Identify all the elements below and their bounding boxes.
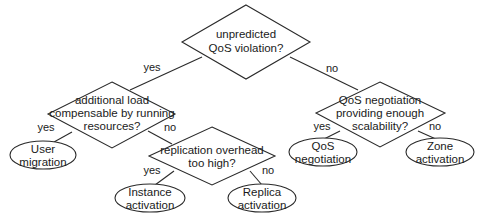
outcome-instance-activation-line-1: Instance xyxy=(128,186,171,198)
decision-right: QoS negotiation providing enough scalabi… xyxy=(316,82,445,147)
outcome-zone-activation-line-1: Zone xyxy=(427,140,453,152)
decision-left: additional load compensable by running r… xyxy=(48,82,175,148)
outcome-user-migration-line-1: User xyxy=(31,143,55,155)
outcome-instance-activation: Instance activation xyxy=(115,184,185,212)
edge-replication-to-replica xyxy=(250,171,262,185)
decision-replication-line-2: too high? xyxy=(188,157,235,169)
edge-label-right-qos: yes xyxy=(313,120,331,132)
edge-label-root-right: no xyxy=(326,62,338,74)
edge-root-to-left xyxy=(130,57,202,90)
decision-left-line-1: additional load xyxy=(75,94,149,106)
outcome-zone-activation: Zone activation xyxy=(406,138,474,166)
decision-root: unpredicted QoS violation? xyxy=(182,5,310,79)
edge-label-right-zone: no xyxy=(429,120,441,132)
outcome-user-migration: User migration xyxy=(10,141,76,169)
outcome-replica-activation-line-2: activation xyxy=(238,199,287,211)
decision-tree-diagram: yes no yes no yes no yes no unpredicted … xyxy=(0,0,487,219)
decision-right-line-1: QoS negotiation xyxy=(339,94,421,106)
outcome-replica-activation-line-1: Replica xyxy=(243,186,282,198)
edge-label-replication-replica: no xyxy=(262,164,274,176)
outcome-qos-negotiation: QoS negotiation xyxy=(289,138,357,166)
decision-root-line-2: QoS violation? xyxy=(209,42,284,54)
outcome-user-migration-line-2: migration xyxy=(19,156,66,168)
edge-left-to-user xyxy=(54,132,72,142)
decision-right-line-2: providing enough xyxy=(336,107,424,119)
diamond-shape xyxy=(149,127,275,185)
outcome-instance-activation-line-2: activation xyxy=(126,199,175,211)
edge-label-root-left: yes xyxy=(143,61,161,73)
outcome-qos-negotiation-line-2: negotiation xyxy=(295,153,351,165)
decision-replication: replication overhead too high? xyxy=(149,127,275,185)
decision-left-line-2: compensable by running xyxy=(49,107,174,119)
edge-root-to-right xyxy=(290,57,358,90)
outcome-qos-negotiation-line-1: QoS xyxy=(311,140,334,152)
edge-label-left-replication: no xyxy=(164,121,176,133)
decision-left-line-3: resources? xyxy=(84,120,141,132)
edge-label-replication-instance: yes xyxy=(143,164,161,176)
edge-label-left-user: yes xyxy=(37,121,55,133)
decision-replication-line-1: replication overhead xyxy=(160,144,264,156)
decision-root-line-1: unpredicted xyxy=(216,28,276,40)
outcome-zone-activation-line-2: activation xyxy=(416,153,465,165)
decision-right-line-3: scalability? xyxy=(352,120,408,132)
outcome-replica-activation: Replica activation xyxy=(228,184,296,212)
